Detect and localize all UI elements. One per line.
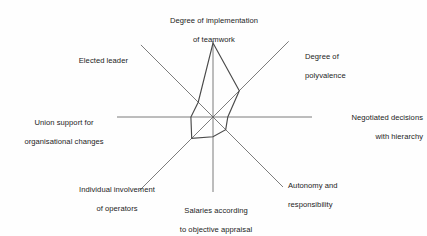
axis-label-salaries: Salaries according to objective appraisa… xyxy=(160,196,272,236)
data-polygon xyxy=(191,43,239,138)
axis-label-union-support-line1: Union support for xyxy=(10,118,118,128)
axis-label-teamwork-line1: Degree of implementation xyxy=(150,16,278,26)
axis-label-negotiated-decisions: Negotiated decisions with hierarchy xyxy=(305,103,423,151)
axis-label-polyvalence: Degree of polyvalence xyxy=(305,42,385,90)
axis-label-salaries-line1: Salaries according xyxy=(160,206,272,216)
axis-label-negotiated-decisions-line2: with hierarchy xyxy=(305,132,423,142)
axis-label-salaries-line2: to objective appraisal xyxy=(160,225,272,235)
axis-label-autonomy-line2: responsibility xyxy=(288,200,380,210)
axis-label-individual-involvement: Individual involvement of operators xyxy=(62,175,172,223)
axis-label-negotiated-decisions-line1: Negotiated decisions xyxy=(305,113,423,123)
axis-label-autonomy: Autonomy and responsibility xyxy=(288,171,380,219)
axis-label-polyvalence-line2: polyvalence xyxy=(305,71,385,81)
axis-label-teamwork: Degree of implementation of teamwork xyxy=(150,6,278,54)
axis-line-elected-leader xyxy=(141,45,213,117)
axis-label-individual-involvement-line2: of operators xyxy=(62,204,172,214)
axis-label-polyvalence-line1: Degree of xyxy=(305,52,385,62)
axis-label-teamwork-line2: of teamwork xyxy=(150,35,278,45)
axis-label-elected-leader-line1: Elected leader xyxy=(46,56,128,66)
radar-chart-figure: Degree of implementation of teamwork Deg… xyxy=(0,0,427,236)
axis-label-autonomy-line1: Autonomy and xyxy=(288,181,380,191)
axis-label-individual-involvement-line1: Individual involvement xyxy=(62,185,172,195)
axis-label-union-support: Union support for organisational changes xyxy=(10,108,118,156)
axis-line-autonomy xyxy=(213,117,283,187)
axis-label-union-support-line2: organisational changes xyxy=(10,137,118,147)
axis-label-elected-leader: Elected leader xyxy=(46,46,128,75)
